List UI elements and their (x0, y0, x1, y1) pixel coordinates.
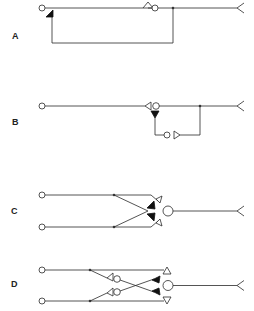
feedback-path (155, 118, 164, 135)
feedback-loop (52, 8, 173, 43)
panel-a (39, 2, 244, 43)
open-triangle-right-icon (174, 131, 180, 139)
node-circle-icon (164, 132, 170, 138)
output-arrow-icon (237, 101, 244, 111)
open-triangle-icon (107, 288, 113, 296)
summing-node-icon (163, 281, 173, 291)
input-node-icon (39, 103, 45, 109)
open-triangle-icon (143, 2, 153, 8)
node-circle-icon (114, 289, 121, 296)
filled-triangle-icon (147, 201, 155, 209)
output-arrow-icon (237, 281, 244, 291)
filled-triangle-icon (147, 213, 155, 221)
panel-b (39, 101, 244, 139)
circuit-diagram (0, 0, 254, 311)
open-triangle-icon (156, 219, 162, 226)
input-node-icon (39, 224, 45, 230)
filled-triangle-icon (152, 276, 160, 283)
input-node-icon (39, 192, 45, 198)
panel-c (39, 192, 244, 230)
filled-triangle-down-icon (151, 111, 159, 118)
node-circle-icon (114, 276, 121, 283)
feedback-return (180, 106, 200, 135)
input-node-icon (39, 267, 45, 273)
input-node-icon (39, 298, 45, 304)
filled-triangle-icon (152, 288, 160, 295)
output-arrow-icon (237, 206, 244, 216)
summing-node-icon (163, 206, 173, 216)
node-circle-icon (153, 103, 160, 110)
filled-triangle-icon (46, 10, 53, 17)
input-node-icon (39, 5, 45, 11)
open-triangle-down-icon (163, 297, 171, 304)
open-triangle-icon (156, 196, 162, 203)
panel-d (39, 267, 244, 304)
node-circle-icon (152, 5, 158, 11)
open-triangle-left-icon (145, 102, 151, 110)
open-triangle-icon (107, 273, 113, 281)
output-arrow-icon (237, 3, 244, 13)
open-triangle-up-icon (163, 267, 171, 274)
